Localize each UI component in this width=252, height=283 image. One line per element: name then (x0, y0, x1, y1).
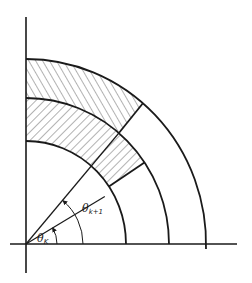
theta-k1-angle-arc (63, 201, 83, 244)
theta-k-label: θK (37, 232, 50, 246)
polar-diagram: θK θk+1 (0, 0, 252, 283)
theta-k-angle-arc (53, 228, 57, 244)
